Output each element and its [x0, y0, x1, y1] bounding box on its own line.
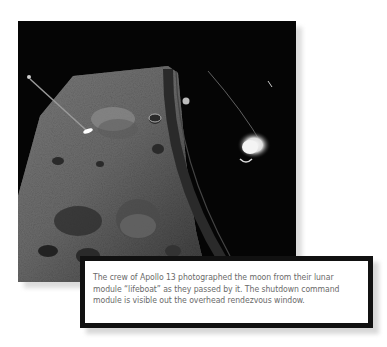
caption-box: The crew of Apollo 13 photographed the m… [80, 256, 373, 328]
caption-text: The crew of Apollo 13 photographed the m… [93, 272, 362, 307]
command-module [237, 131, 271, 162]
moon-photo [18, 21, 296, 282]
moon-photo-illustration [18, 21, 296, 282]
